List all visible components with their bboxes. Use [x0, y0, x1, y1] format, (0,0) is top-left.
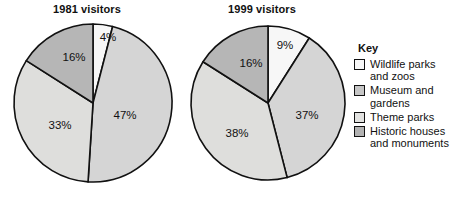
chart-title-1981: 1981 visitors	[53, 3, 121, 15]
chart-title-1999: 1999 visitors	[228, 3, 296, 15]
legend-item-museum: Museum and gardens	[354, 84, 465, 108]
legend-swatch-historic-icon	[354, 126, 365, 137]
legend-swatch-museum-icon	[354, 85, 365, 96]
legend-item-wildlife: Wildlife parks and zoos	[354, 58, 465, 82]
pie-slice-label: 38%	[225, 127, 248, 139]
legend-item-theme: Theme parks	[354, 111, 465, 123]
pie-slice-label: 16%	[239, 57, 262, 69]
pie-slice-label: 37%	[295, 109, 318, 121]
pie-slice-label: 47%	[113, 109, 136, 121]
pie-slice-label: 9%	[277, 39, 294, 51]
legend-swatch-theme-icon	[354, 112, 365, 123]
pie-slice-label: 16%	[62, 51, 85, 63]
legend-title: Key	[358, 42, 465, 54]
legend: Key Wildlife parks and zoos Museum and g…	[354, 42, 465, 151]
legend-swatch-wildlife-icon	[354, 59, 365, 70]
legend-label-theme: Theme parks	[370, 111, 434, 123]
legend-label-historic: Historic houses and monuments	[370, 125, 449, 149]
pie-chart-1981: 4%47%33%16%	[12, 22, 174, 184]
pie-slice-label: 4%	[100, 31, 117, 43]
legend-label-wildlife: Wildlife parks and zoos	[370, 58, 435, 82]
pie-chart-figure: 1981 visitors 1999 visitors 4%47%33%16% …	[0, 0, 465, 198]
legend-label-museum: Museum and gardens	[370, 84, 434, 108]
pie-slice-label: 33%	[48, 119, 71, 131]
legend-item-historic: Historic houses and monuments	[354, 125, 465, 149]
pie-chart-1999: 9%37%38%16%	[189, 24, 347, 182]
